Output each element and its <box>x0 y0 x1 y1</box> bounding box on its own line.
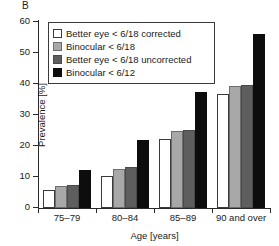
y-axis-tick-label: 20 <box>19 139 30 150</box>
bar <box>159 139 171 208</box>
y-axis-tick-label: 50 <box>19 46 30 57</box>
bar <box>171 131 183 209</box>
x-axis-tick <box>270 208 271 213</box>
y-axis-tick: 30 <box>33 114 38 115</box>
x-axis-tick <box>212 208 213 213</box>
legend-item-label: Better eye < 6/18 uncorrected <box>66 54 191 65</box>
bar <box>125 167 137 208</box>
y-axis-tick-label: 60 <box>19 15 30 26</box>
x-axis-category-label: 75–79 <box>54 212 80 223</box>
panel-label: B <box>22 1 29 11</box>
legend-swatch-icon <box>53 55 62 64</box>
legend-item: Better eye < 6/18 uncorrected <box>53 53 208 66</box>
x-axis-title: Age [years] <box>38 230 271 241</box>
bar <box>55 186 67 208</box>
y-axis-tick: 50 <box>33 52 38 53</box>
x-axis-category-label: 80–84 <box>112 212 138 223</box>
bar <box>43 190 55 208</box>
y-axis-tick-label: 30 <box>19 108 30 119</box>
y-axis-tick: 20 <box>33 145 38 146</box>
bar <box>137 140 149 209</box>
y-axis-tick-label: 0 <box>25 201 30 212</box>
legend-item: Binocular < 6/12 <box>53 66 208 79</box>
legend-swatch-icon <box>53 42 62 51</box>
bar <box>67 185 79 208</box>
x-axis-tick <box>96 208 97 213</box>
x-axis-category-label: 90 and over <box>216 212 266 223</box>
y-axis-tick: 10 <box>33 176 38 177</box>
bar <box>79 170 91 208</box>
x-axis-tick <box>38 208 39 213</box>
y-axis-tick-label: 40 <box>19 77 30 88</box>
y-axis-tick-label: 10 <box>19 170 30 181</box>
legend-item: Better eye < 6/18 corrected <box>53 27 208 40</box>
bar <box>195 92 207 208</box>
legend-swatch-icon <box>53 68 62 77</box>
legend-item-label: Binocular < 6/18 <box>66 41 135 52</box>
y-axis-title: Prevalence [%] <box>36 83 47 147</box>
bar <box>183 130 195 208</box>
bar <box>253 34 265 208</box>
bar <box>217 94 229 208</box>
legend-item-label: Better eye < 6/18 corrected <box>66 28 181 39</box>
x-axis-category-label: 85–89 <box>170 212 196 223</box>
bar <box>113 169 125 208</box>
y-axis-tick: 40 <box>33 83 38 84</box>
legend-swatch-icon <box>53 29 62 38</box>
legend-item: Binocular < 6/18 <box>53 40 208 53</box>
bar <box>101 176 113 208</box>
bar <box>229 86 241 208</box>
bar <box>241 85 253 208</box>
legend-item-label: Binocular < 6/12 <box>66 67 135 78</box>
x-axis-tick <box>154 208 155 213</box>
prevalence-bar-chart-figure: B Prevalence [%] 0102030405060 75–7980–8… <box>0 0 279 246</box>
legend: Better eye < 6/18 correctedBinocular < 6… <box>48 22 215 84</box>
y-axis-tick: 60 <box>33 21 38 22</box>
